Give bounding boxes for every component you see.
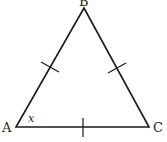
- triangle-diagram: B A C x: [0, 0, 167, 142]
- vertex-label-b: B: [79, 0, 89, 9]
- angle-label-x: x: [28, 112, 35, 125]
- triangle-abc: [16, 8, 149, 127]
- tick-mark-bc: [108, 63, 126, 73]
- tick-mark-ab: [41, 62, 59, 72]
- vertex-label-a: A: [1, 120, 12, 135]
- vertex-label-c: C: [153, 120, 163, 135]
